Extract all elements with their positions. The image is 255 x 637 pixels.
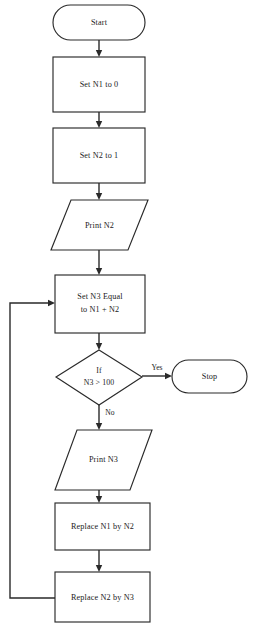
- node-print-n3[interactable]: Print N3: [55, 430, 152, 490]
- node-set-n1-label: Set N1 to 0: [80, 80, 119, 89]
- connector-print-n3-to-replace-n1: [96, 490, 102, 503]
- node-start-label: Start: [91, 18, 108, 27]
- connector-set-n3-to-decision: [96, 333, 102, 350]
- node-replace-n2-label: Replace N2 by N3: [71, 593, 134, 602]
- node-stop[interactable]: Stop: [172, 360, 247, 393]
- node-print-n2[interactable]: Print N2: [51, 200, 148, 250]
- node-print-n3-label: Print N3: [89, 455, 118, 464]
- connector-print-n2-to-set-n3: [96, 250, 102, 275]
- node-set-n3-label-line1: Set N3 Equal: [77, 292, 123, 301]
- node-set-n3[interactable]: Set N3 Equal to N1 + N2: [55, 275, 145, 333]
- connector-decision-to-print-n3-no: [96, 405, 102, 430]
- connector-set-n1-to-set-n2: [96, 112, 102, 128]
- flowchart-svg: Start Set N1 to 0 Set N2 to 1 Print N2 S…: [0, 0, 255, 637]
- node-replace-n1-label: Replace N1 by N2: [71, 522, 134, 531]
- flowchart-canvas: Start Set N1 to 0 Set N2 to 1 Print N2 S…: [0, 0, 255, 637]
- node-set-n2[interactable]: Set N2 to 1: [53, 128, 145, 183]
- edge-label-yes: Yes: [151, 363, 162, 372]
- node-set-n3-label-line2: to N1 + N2: [81, 305, 120, 314]
- node-decision-n3-gt-100[interactable]: If N3 > 100: [56, 350, 142, 405]
- connector-start-to-set-n1: [96, 40, 102, 57]
- node-decision-label-line1: If: [96, 366, 102, 375]
- edge-label-no: No: [105, 408, 114, 417]
- node-decision-label-line2: N3 > 100: [84, 378, 114, 387]
- connector-decision-to-stop-yes: [142, 373, 172, 379]
- node-set-n1[interactable]: Set N1 to 0: [53, 57, 145, 112]
- node-stop-label: Stop: [202, 372, 218, 381]
- node-print-n2-label: Print N2: [85, 221, 114, 230]
- node-replace-n2[interactable]: Replace N2 by N3: [55, 572, 150, 622]
- connector-set-n2-to-print-n2: [96, 183, 102, 200]
- node-replace-n1[interactable]: Replace N1 by N2: [55, 503, 150, 550]
- node-set-n2-label: Set N2 to 1: [80, 151, 119, 160]
- connector-feedback-loop: [10, 300, 55, 598]
- node-start[interactable]: Start: [53, 5, 145, 40]
- connector-replace-n1-to-replace-n2: [96, 550, 102, 572]
